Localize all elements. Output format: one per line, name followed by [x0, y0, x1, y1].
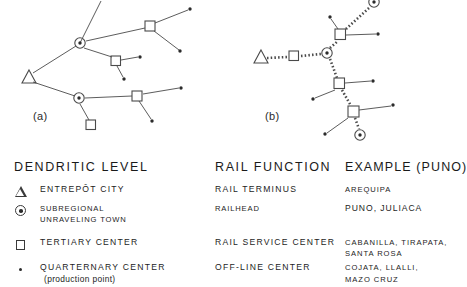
legend-label-arequipa: AREQUIPA	[345, 184, 391, 196]
edge-b-square2-dot4	[315, 90, 335, 98]
triangle-icon	[14, 185, 36, 199]
legend-label-subregional-line1: SUBREGIONAL	[40, 203, 104, 215]
circle-dot-icon	[14, 204, 36, 218]
square-icon	[14, 238, 36, 252]
node-a-quarternary-3	[138, 55, 141, 58]
edge-a-circle1-open	[80, 1, 101, 43]
legend-label-subregional-line2: UNRAVELING TOWN	[40, 214, 127, 226]
legend-label-puno-juliaca: PUNO, JULIACA	[345, 203, 422, 215]
edge-a-square4-dot5	[143, 88, 179, 94]
edge-b-terminus-circle1	[301, 54, 321, 56]
node-b-rail-terminus-square	[289, 51, 299, 61]
node-a-quarternary-1	[188, 7, 191, 10]
legend-label-cojata-line2: MAZO CRUZ	[345, 274, 399, 286]
legend-label-railhead: RAILHEAD	[215, 203, 260, 215]
node-a-quarternary-5	[179, 86, 182, 89]
edge-b-square3-dot6	[327, 118, 348, 133]
edge-a-circle1-square1	[86, 28, 145, 41]
legend-label-tertiary: TERTIARY CENTER	[40, 237, 139, 249]
edge-a-square2-dot4	[117, 66, 123, 77]
legend-label-cojata-line1: COJATA, LLALLI,	[345, 262, 418, 274]
panel-label-a: (a)	[33, 110, 47, 122]
legend-label-rail-service-center: RAIL SERVICE CENTER	[215, 237, 335, 249]
dot-icon	[14, 263, 36, 277]
panel-b-edges	[267, 8, 391, 133]
edge-a-circle2-square4	[85, 96, 132, 98]
legend-header-example: EXAMPLE (PUNO)	[345, 160, 467, 174]
node-b-entrepot-triangle	[254, 50, 268, 63]
edge-a-square4-dot6	[139, 101, 151, 119]
edge-a-circle1-square2	[84, 48, 112, 57]
legend-label-rail-terminus: RAIL TERMINUS	[215, 184, 297, 196]
node-a-quarternary-2	[178, 49, 181, 52]
node-a-quarternary-4	[122, 77, 125, 80]
legend-header-dendritic: DENDRITIC LEVEL	[14, 160, 148, 174]
panel-a-nodes	[22, 7, 192, 129]
node-a-tertiary-3	[86, 120, 96, 130]
edge-a-square1-dot1	[155, 10, 188, 23]
panel-label-b: (b)	[265, 110, 279, 122]
node-b-railhead-2-dot	[372, 0, 375, 3]
node-b-railhead-1-dot	[325, 51, 328, 54]
edge-b-triangle-terminus	[267, 57, 288, 58]
panel-b-solid-edges	[315, 19, 391, 133]
edge-b-circle1-square1	[330, 41, 338, 48]
node-a-tertiary-2	[111, 56, 121, 66]
edge-b-square2-square3	[342, 90, 351, 106]
node-a-subregional-1-dot	[78, 41, 81, 44]
legend-label-cabanilla-line1: CABANILLA, TIRAPATA,	[345, 237, 447, 249]
node-b-offline-3	[371, 79, 374, 82]
node-b-service-center-3	[348, 106, 359, 117]
edge-b-square3-dot5	[359, 106, 391, 110]
edge-a-circle2-square3	[80, 104, 89, 120]
edge-a-square1-dot2	[154, 31, 179, 50]
node-a-subregional-2-dot	[77, 96, 80, 99]
dendritic-diagrams-svg	[0, 0, 441, 150]
edge-a-square2-dot3	[121, 57, 138, 60]
edge-a-triangle-circle2	[33, 82, 75, 96]
node-b-offline-5	[391, 103, 394, 106]
legend-label-cabanilla-line2: SANTA ROSA	[345, 248, 402, 260]
legend-label-off-line-center: OFF-LINE CENTER	[215, 262, 311, 274]
node-a-tertiary-4	[132, 91, 142, 101]
edge-b-square1-dot2	[346, 34, 376, 35]
edge-b-square1-dot1	[331, 19, 338, 29]
legend-header-rail: RAIL FUNCTION	[215, 160, 331, 174]
legend: DENDRITIC LEVEL ENTREPÔT CITY SUBREGIONA…	[0, 150, 441, 287]
edge-a-triangle-circle1	[33, 46, 76, 73]
node-a-quarternary-6	[150, 119, 153, 122]
node-b-railhead-3-dot	[358, 133, 361, 136]
node-a-tertiary-1	[145, 21, 155, 31]
node-b-offline-2	[376, 32, 379, 35]
node-b-service-center-2	[334, 78, 345, 89]
edge-b-circle1-square2	[330, 59, 337, 78]
node-b-offline-4	[311, 97, 314, 100]
legend-label-quarternary-line2: (production point)	[44, 274, 115, 286]
edge-b-square3-circle3	[355, 118, 359, 129]
edge-b-square2-dot3	[345, 81, 371, 83]
panel-b-rail-edges	[267, 8, 369, 129]
edge-b-square1-circle2	[346, 8, 369, 29]
legend-label-quarternary-line1: QUARTERNARY CENTER	[40, 262, 166, 274]
node-b-offline-1	[328, 15, 331, 18]
node-b-offline-6	[323, 132, 326, 135]
legend-label-entrepot: ENTREPÔT CITY	[40, 184, 125, 196]
node-b-service-center-1	[335, 29, 346, 40]
